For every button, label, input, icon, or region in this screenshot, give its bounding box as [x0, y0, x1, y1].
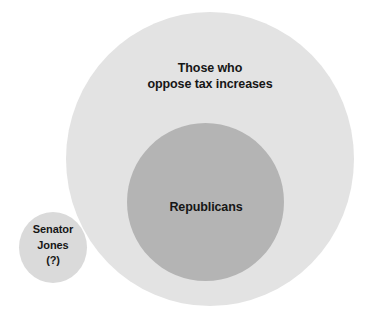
euler-diagram-canvas: Those who oppose tax increases Republica… [0, 0, 374, 319]
inner-set-label: Republicans [140, 200, 272, 216]
outer-set-label: Those who oppose tax increases [110, 61, 310, 92]
individual-label: Senator Jones (?) [19, 222, 87, 269]
